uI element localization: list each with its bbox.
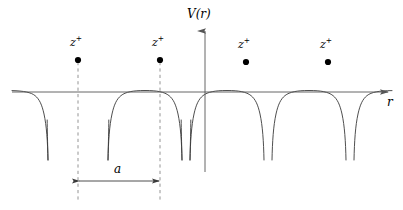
v-axis-label: V(r) <box>187 8 211 20</box>
potential-well-3 <box>272 91 346 161</box>
potential-well-partial-left <box>12 91 48 160</box>
ion-label-3: z+ <box>238 39 250 50</box>
ion-charge-2: + <box>158 34 164 43</box>
ion-charge-4: + <box>326 36 332 45</box>
ion-dot-3 <box>243 59 249 65</box>
potential-diagram-figure: V(r) r z+ z+ z+ z+ a <box>0 0 403 210</box>
r-axis-label: r <box>387 96 393 108</box>
lattice-constant-label: a <box>114 163 121 175</box>
ion-label-4: z+ <box>320 39 332 50</box>
cusp-leg-2-left <box>190 120 191 160</box>
ion-label-1: z+ <box>70 37 82 48</box>
ion-dot-1 <box>75 57 81 63</box>
diagram-canvas <box>0 0 403 210</box>
ion-core-dots <box>75 57 331 65</box>
ion-guide-lines <box>78 62 160 200</box>
potential-well-1 <box>108 91 182 161</box>
ion-charge-1: + <box>76 34 82 43</box>
potential-well-2 <box>190 91 264 161</box>
ion-charge-3: + <box>244 36 250 45</box>
ion-label-2: z+ <box>152 37 164 48</box>
cusp-leg-left-a <box>47 120 48 160</box>
cusp-leg-1-right <box>181 120 182 160</box>
potential-curve-group <box>12 91 392 161</box>
ion-dot-2 <box>157 57 163 63</box>
ion-dot-4 <box>325 59 331 65</box>
cusp-leg-1-left <box>108 120 109 160</box>
